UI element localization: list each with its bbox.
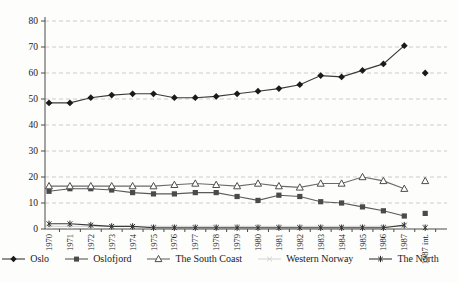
square-marker-icon [74,256,79,261]
series-line [49,189,404,216]
triangle-marker-icon [255,180,262,186]
diamond-marker-icon [255,88,262,95]
legend-item-the-north: The North [368,253,438,264]
diamond-marker-icon [192,94,199,101]
diamond-marker-icon [422,70,429,77]
legend-label-oslo: Oslo [30,253,49,264]
square-marker-icon [214,190,219,195]
line-chart-plot: 0102030405060708019701971197219731974197… [0,0,458,283]
square-marker-icon [339,200,344,205]
y-tick-label: 80 [29,16,39,26]
x-tick-label: 1982 [295,234,305,251]
square-marker-icon [64,254,89,264]
x-tick-label: 1978 [211,234,221,251]
diamond-marker-icon [338,74,345,81]
x-tick-label: 1987 [399,234,409,251]
y-tick-label: 0 [33,224,38,234]
y-tick-label: 10 [29,198,39,208]
series-line [49,46,404,103]
x-tick-label: 1984 [337,233,347,251]
y-tick-label: 70 [29,42,39,52]
chart-legend: Oslo Oslofjord The South Coast Western N… [0,253,440,264]
diamond-marker-icon [150,90,157,97]
x-tick-label: 1986 [378,234,388,251]
square-marker-icon [46,189,51,194]
y-tick-label: 60 [29,68,39,78]
series-oslo [46,42,429,106]
legend-label-oslofjord: Oslofjord [93,253,131,264]
chart-figure: 0102030405060708019701971197219731974197… [0,0,458,283]
y-tick-label: 40 [29,120,39,130]
diamond-marker-icon [11,255,17,261]
x-tick-label: 1980 [253,234,263,251]
triangle-marker-icon [359,173,366,179]
triangle-marker-icon [192,180,199,186]
series-the-south-coast [46,173,429,191]
x-tick-label: 1977 [190,234,200,251]
square-marker-icon [151,191,156,196]
legend-item-western-norway: Western Norway [257,253,353,264]
square-marker-icon [318,199,323,204]
x-tick-label: 1971 [65,234,75,251]
x-tick-label: 1975 [149,234,159,251]
diamond-marker-icon [67,100,74,107]
y-tick-label: 50 [29,94,39,104]
x-tick-label: 1979 [232,234,242,251]
diamond-marker-icon [276,85,283,92]
x-marker-icon [257,254,282,264]
series-oslofjord [46,186,427,218]
legend-label-western-norway: Western Norway [286,253,353,264]
diamond-marker-icon [171,94,178,101]
diamond-marker-icon [129,90,136,97]
legend-label-south-coast: The South Coast [175,253,242,264]
x-tick-label: 1972 [86,234,96,251]
diamond-marker-icon [234,90,241,97]
x-tick-label: 1974 [128,233,138,251]
square-marker-icon [130,190,135,195]
legend-item-south-coast: The South Coast [146,253,242,264]
y-tick-label: 20 [29,172,39,182]
diamond-marker-icon [296,81,303,88]
diamond-marker-icon [108,92,115,99]
square-marker-icon [172,191,177,196]
square-marker-icon [193,190,198,195]
square-marker-icon [255,198,260,203]
square-marker-icon [381,208,386,213]
diamond-marker-icon [87,94,94,101]
series-line [49,177,404,189]
legend-item-oslo: Oslo [1,253,49,264]
y-tick-label: 30 [29,146,39,156]
square-marker-icon [360,204,365,209]
x-tick-label: 1983 [316,234,326,251]
x-tick-label: 1981 [274,234,284,251]
triangle-marker-icon [422,177,429,183]
diamond-marker-icon [1,254,26,264]
square-marker-icon [297,194,302,199]
x-tick-label: 1970 [44,234,54,251]
legend-label-the-north: The North [397,253,438,264]
legend-item-oslofjord: Oslofjord [64,253,131,264]
x-tick-label: 1973 [107,234,117,251]
x-tick-label: 1976 [169,234,179,251]
square-marker-icon [402,213,407,218]
square-marker-icon [423,211,428,216]
x-tick-label: 1985 [358,234,368,251]
square-marker-icon [276,193,281,198]
square-marker-icon [235,194,240,199]
triangle-marker-icon [146,254,171,264]
series-line [49,224,404,228]
diamond-marker-icon [46,100,53,107]
asterisk-marker-icon [368,254,393,264]
